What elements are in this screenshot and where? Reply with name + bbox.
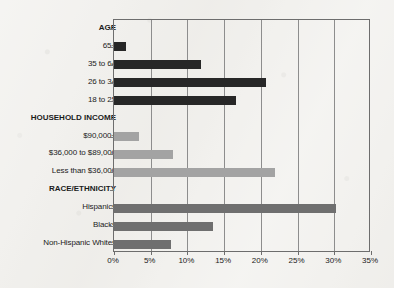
category-label: 18 to 25	[88, 95, 116, 105]
bar	[114, 222, 213, 231]
x-tick-mark	[298, 251, 299, 255]
bar	[114, 60, 201, 69]
x-tick-mark	[151, 251, 152, 255]
bar	[114, 204, 336, 213]
category-label: 35 to 64	[88, 59, 116, 69]
group-header-label: RACE/ETHNICITY	[49, 184, 116, 194]
x-tick-mark	[371, 251, 372, 255]
bar	[114, 132, 139, 141]
x-axis-tick-label: 15%	[215, 256, 231, 265]
y-tick-mark	[110, 190, 114, 191]
category-label: Less than $36,000	[52, 166, 116, 176]
x-axis-tick-label: 20%	[252, 256, 268, 265]
gridline-15	[224, 20, 225, 251]
category-label: 26 to 34	[88, 77, 116, 87]
y-tick-mark	[110, 119, 114, 120]
plot-area	[113, 19, 370, 252]
category-label: $36,000 to $89,000	[49, 148, 116, 158]
x-axis-tick-label: 35%	[362, 256, 378, 265]
x-tick-mark	[114, 251, 115, 255]
group-header-label: HOUSEHOLD INCOME	[31, 113, 116, 123]
x-tick-mark	[224, 251, 225, 255]
gridline-5	[151, 20, 152, 251]
x-tick-mark	[334, 251, 335, 255]
category-label: $90,000+	[83, 131, 116, 141]
x-axis-tick-label: 30%	[325, 256, 341, 265]
bar	[114, 78, 266, 87]
bar	[114, 168, 275, 177]
gridline-10	[187, 20, 188, 251]
bar	[114, 150, 173, 159]
y-tick-mark	[110, 29, 114, 30]
x-tick-mark	[187, 251, 188, 255]
gridline-20	[261, 20, 262, 251]
category-label: Hispanics	[82, 202, 116, 212]
gridline-30	[334, 20, 335, 251]
gridline-25	[298, 20, 299, 251]
x-axis-tick-label: 25%	[289, 256, 305, 265]
bar	[114, 42, 126, 51]
bar	[114, 96, 236, 105]
horizontal-bar-chart: AGE65+35 to 6426 to 3418 to 25HOUSEHOLD …	[0, 0, 394, 288]
x-axis-tick-label: 10%	[178, 256, 194, 265]
x-tick-mark	[261, 251, 262, 255]
category-label: Non-Hispanic Whites	[43, 238, 116, 248]
x-axis-tick-label: 5%	[144, 256, 156, 265]
x-axis-tick-label: 0%	[107, 256, 119, 265]
bar	[114, 240, 171, 249]
